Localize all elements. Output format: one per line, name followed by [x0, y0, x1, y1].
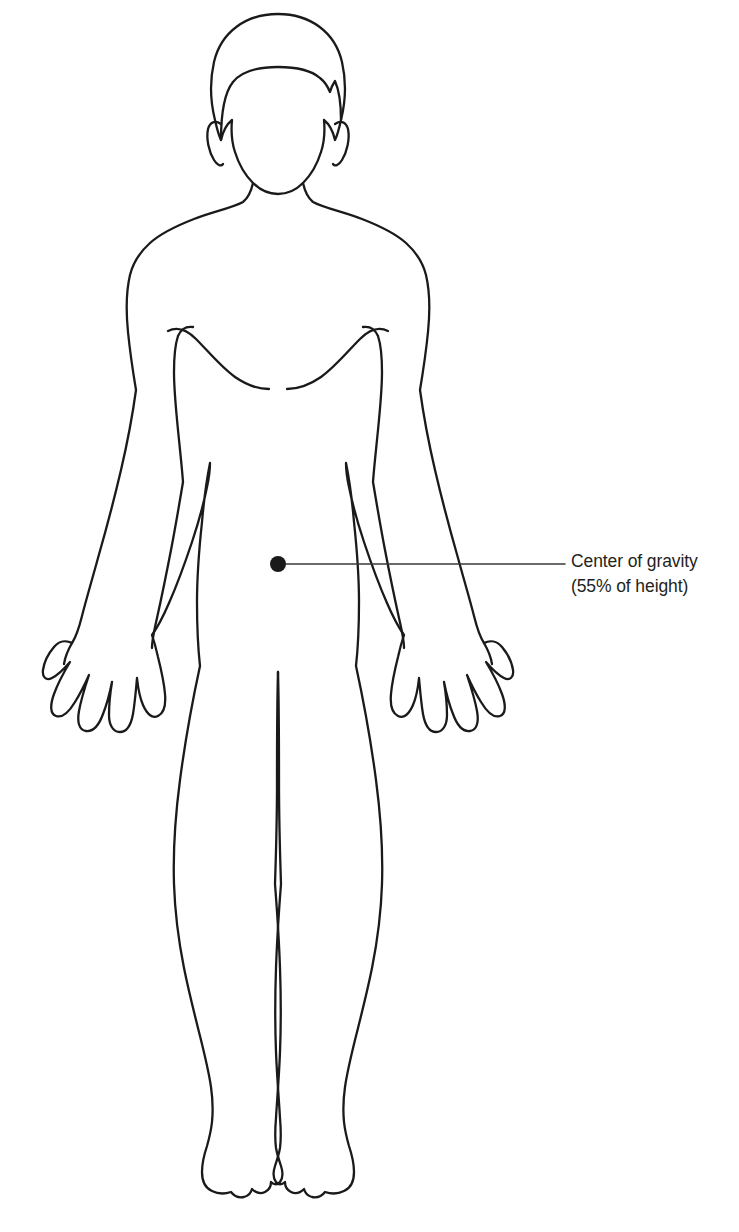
right-thumb-line [484, 643, 492, 664]
left-thumb-line [64, 643, 72, 664]
body-outline-group [43, 14, 513, 1197]
label-line-2: (55% of height) [571, 574, 739, 599]
left-inner-arm-line [152, 327, 193, 648]
right-inner-arm-line [363, 327, 404, 648]
diagram-canvas: Center of gravity (55% of height) [0, 0, 739, 1232]
center-of-gravity-label: Center of gravity (55% of height) [571, 549, 739, 599]
torso-and-legs-right-contour [274, 183, 514, 1197]
left-pectoral-line [168, 329, 269, 389]
human-body-outline-figure [0, 0, 739, 1232]
head-outline [211, 14, 345, 194]
torso-and-legs-left-contour [43, 183, 283, 1197]
label-line-1: Center of gravity [571, 549, 739, 574]
right-ear [333, 122, 349, 165]
right-pectoral-line [287, 329, 388, 389]
hairline [221, 67, 341, 140]
center-of-gravity-marker [270, 556, 286, 572]
